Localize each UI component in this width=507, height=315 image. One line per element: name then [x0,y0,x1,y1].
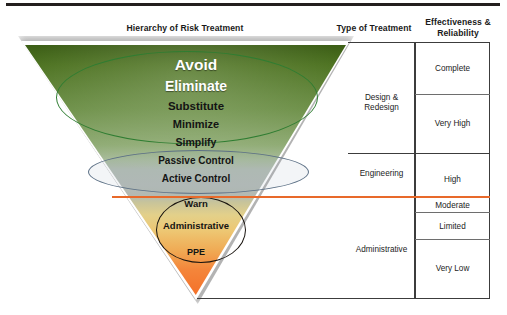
moderate-threshold-rule [112,196,490,198]
pyramid-level-minimize: Minimize [0,119,392,130]
column-header-effectiveness-reliability: Effectiveness & Reliability [416,17,500,39]
eff-cell-complete: Complete [415,64,490,74]
pyramid-level-active-control: Active Control [0,174,392,184]
effectiveness-column [415,42,490,299]
type-cell-administrative: Administrative [348,245,415,255]
column-header-hierarchy-of-risk-treatment: Hierarchy of Risk Treatment [60,23,310,34]
pyramid-level-eliminate: Eliminate [0,79,392,93]
pyramid-level-avoid: Avoid [0,57,392,73]
pyramid-level-simplify: Simplify [0,137,392,148]
effectiveness-header-line1: Effectiveness & [425,17,491,27]
effectiveness-header-line2: Reliability [437,28,479,38]
pyramid-level-passive-control: Passive Control [0,156,392,166]
pyramid-level-ppe: PPE [0,248,392,257]
column-header-type-of-treatment: Type of Treatment [333,23,415,34]
risk-treatment-hierarchy-diagram: Hierarchy of Risk Treatment Type of Trea… [0,0,507,315]
eff-cell-very-high: Very High [415,119,490,129]
type-divider-1 [348,153,415,154]
eff-cell-limited: Limited [415,222,490,232]
pyramid-level-warn: Warn [0,199,392,209]
eff-divider-1 [415,94,490,95]
type-cell-engineering: Engineering [348,169,415,179]
baseline-rule [197,298,350,299]
pyramid-level-substitute: Substitute [0,101,392,113]
type-cell-design-redesign: Design & Redesign [348,93,415,113]
eff-divider-4 [415,239,490,240]
top-divider-rule [6,3,500,6]
eff-cell-very-low: Very Low [415,264,490,274]
eff-cell-moderate: Moderate [415,201,490,211]
eff-divider-2 [415,153,490,154]
pyramid-level-administrative: Administrative [0,221,392,231]
eff-divider-3 [415,212,490,213]
eff-cell-high: High [415,175,490,185]
treatment-matrix-table: Design & Redesign Engineering Administra… [348,42,490,299]
